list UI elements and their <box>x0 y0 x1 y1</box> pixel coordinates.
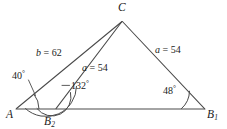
vertex-label-A-text: A <box>6 108 13 120</box>
angle-label-A: 40° <box>12 70 25 81</box>
side-label-a-inner-value: 54 <box>98 62 108 73</box>
vertex-label-A: A <box>6 109 13 121</box>
angle-label-B1-value: 48 <box>163 85 173 96</box>
angle-label-B2: 132° <box>71 80 89 91</box>
vertex-label-B1-text: B <box>207 108 214 120</box>
degree-symbol-icon: ° <box>86 79 89 88</box>
vertex-label-B2: B2 <box>44 116 55 129</box>
angle-leader-A <box>29 80 36 96</box>
side-label-b-equals: = <box>44 47 50 58</box>
vertex-label-B1: B1 <box>207 109 218 122</box>
angle-arc-B1 <box>182 91 190 108</box>
triangle-geometry-svg <box>0 0 227 129</box>
side-label-b-value: 62 <box>52 47 62 58</box>
side-label-b-variable: b <box>36 47 41 58</box>
angle-label-A-value: 40 <box>12 70 22 81</box>
degree-symbol-icon: ° <box>173 84 176 93</box>
side-label-a-right: a = 54 <box>155 45 181 55</box>
side-label-a-right-variable: a <box>155 44 160 55</box>
angle-arc-A <box>34 94 39 109</box>
vertex-label-B2-text: B <box>44 115 51 127</box>
vertex-label-C-text: C <box>118 1 126 13</box>
side-label-a-inner-equals: = <box>90 62 96 73</box>
vertex-label-B2-subscript: 2 <box>51 120 55 129</box>
vertex-label-C: C <box>118 2 126 14</box>
side-label-b: b = 62 <box>36 48 62 58</box>
angle-label-B2-value: 132 <box>71 80 86 91</box>
side-label-a-right-value: 54 <box>171 44 181 55</box>
side-label-a-inner-variable: a <box>82 62 87 73</box>
degree-symbol-icon: ° <box>22 69 25 78</box>
side-label-a-right-equals: = <box>163 44 169 55</box>
triangle-figure: C A B1 B2 b = 62 a = 54 a = 54 40° 132° … <box>0 0 227 129</box>
vertex-label-B1-subscript: 1 <box>214 113 218 122</box>
angle-label-B1: 48° <box>163 85 176 96</box>
side-label-a-inner: a = 54 <box>82 63 108 73</box>
